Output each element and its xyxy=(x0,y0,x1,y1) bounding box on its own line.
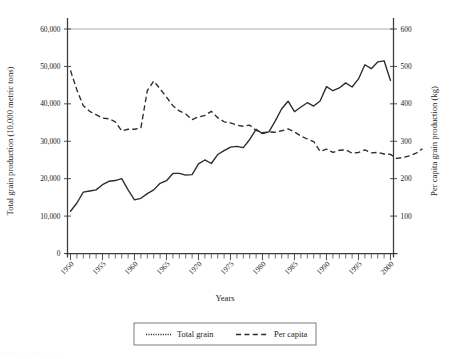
right-axis-tick-labels: 100200300400500600 xyxy=(401,25,412,221)
left-tick-label: 50,000 xyxy=(40,62,61,71)
right-tick-label: 400 xyxy=(401,99,412,108)
left-tick-label: 60,000 xyxy=(40,25,61,34)
legend-label-total-grain: Total grain xyxy=(177,330,214,339)
x-tick-label: 1985 xyxy=(283,259,300,276)
right-tick-label: 200 xyxy=(401,174,412,183)
right-tick-label: 500 xyxy=(401,62,412,71)
chart-legend: Total grain Per capita xyxy=(134,323,316,345)
right-tick-label: 600 xyxy=(401,25,412,34)
left-axis-tick-labels: 010,00020,00030,00040,00050,00060,000 xyxy=(40,25,61,259)
left-tick-label: 0 xyxy=(57,249,61,258)
x-axis-title: Years xyxy=(215,293,235,303)
page-footer-text: . . . . . . . . . . . . . xyxy=(0,347,449,359)
x-tick-label: 1955 xyxy=(91,259,108,276)
x-tick-label: 1980 xyxy=(251,259,268,276)
left-axis-title: Total grain production (10,000 metric to… xyxy=(5,66,15,215)
legend-label-per-capita: Per capita xyxy=(274,330,308,339)
x-tick-label: 1970 xyxy=(187,259,204,276)
x-tick-label: 2000 xyxy=(379,259,396,276)
x-tick-label: 1950 xyxy=(59,259,76,276)
grain-production-dual-axis-line-chart: 010,00020,00030,00040,00050,00060,000 10… xyxy=(0,0,449,359)
right-axis-title: Per capita grain production (kg) xyxy=(429,86,439,196)
right-tick-label: 300 xyxy=(401,137,412,146)
chart-figure: 010,00020,00030,00040,00050,00060,000 10… xyxy=(0,0,449,359)
x-tick-label: 1975 xyxy=(219,259,236,276)
x-tick-label: 1995 xyxy=(347,259,364,276)
right-tick-label: 100 xyxy=(401,212,412,221)
x-axis-tick-labels: 1950195519601965197019751980198519901995… xyxy=(59,259,396,276)
left-tick-label: 20,000 xyxy=(40,174,61,183)
x-tick-label: 1965 xyxy=(155,259,172,276)
x-tick-label: 1960 xyxy=(123,259,140,276)
x-axis-ticks xyxy=(71,254,391,261)
series-line-total-grain xyxy=(71,61,391,211)
left-tick-label: 40,000 xyxy=(40,99,61,108)
x-tick-label: 1990 xyxy=(315,259,332,276)
left-tick-label: 30,000 xyxy=(40,137,61,146)
left-tick-label: 10,000 xyxy=(40,212,61,221)
series-line-per-capita xyxy=(71,71,423,159)
